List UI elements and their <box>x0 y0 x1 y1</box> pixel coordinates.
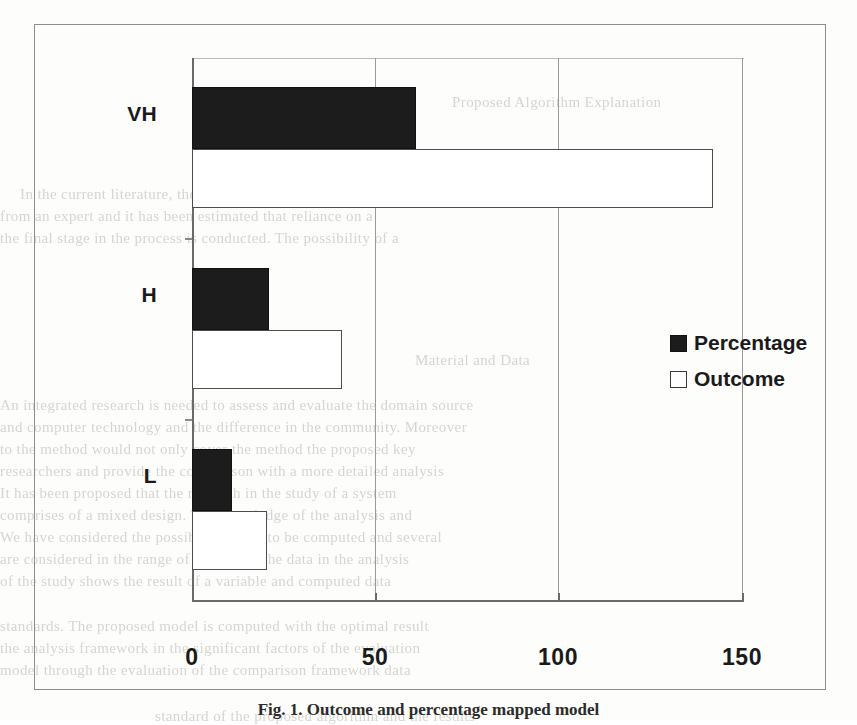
chart-plot-area: 0 50 100 150 <box>192 58 742 600</box>
gridline-100 <box>558 58 559 600</box>
x-axis-tick-50 <box>375 593 377 600</box>
x-tick-label-50: 50 <box>362 644 389 671</box>
legend-label-outcome: Outcome <box>694 367 785 391</box>
x-axis-tick-100 <box>558 593 560 600</box>
bar-l-outcome <box>192 511 267 570</box>
y-axis-tick <box>185 238 192 240</box>
x-tick-label-100: 100 <box>538 644 578 671</box>
figure-frame: 0 50 100 150 VH H L Percentage Outcome <box>34 24 826 690</box>
y-category-label-l: L <box>97 464 157 488</box>
chart-legend: Percentage Outcome <box>670 325 857 397</box>
bar-h-outcome <box>192 330 342 389</box>
y-category-label-vh: VH <box>97 102 157 126</box>
bar-vh-percentage <box>192 87 416 149</box>
y-axis-tick <box>185 419 192 421</box>
x-axis-tick-0 <box>192 593 194 600</box>
legend-swatch-filled-square-icon <box>670 335 687 352</box>
bar-h-percentage <box>192 268 269 330</box>
legend-label-percentage: Percentage <box>694 331 807 355</box>
legend-swatch-hollow-square-icon <box>670 371 687 388</box>
x-axis-line <box>192 600 744 602</box>
x-tick-label-150: 150 <box>722 644 762 671</box>
y-category-label-h: H <box>97 283 157 307</box>
bar-l-percentage <box>192 449 232 511</box>
legend-item-percentage: Percentage <box>670 325 857 361</box>
legend-item-outcome: Outcome <box>670 361 857 397</box>
x-axis-tick-150 <box>742 593 744 600</box>
x-tick-label-0: 0 <box>185 644 198 671</box>
plot-top-rule <box>192 58 744 59</box>
bar-vh-outcome <box>192 149 713 208</box>
figure-caption: Fig. 1. Outcome and percentage mapped mo… <box>0 700 857 720</box>
